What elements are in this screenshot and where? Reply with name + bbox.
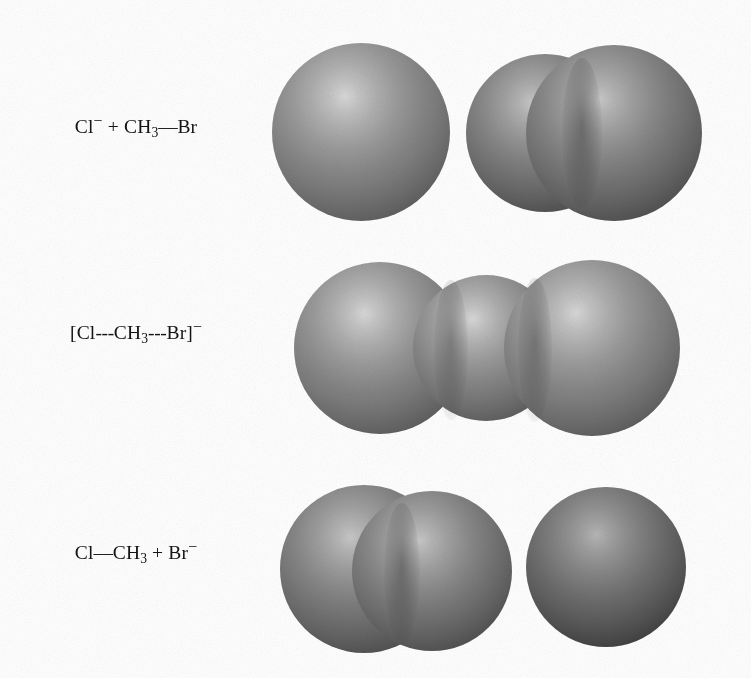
figure-title: SN2 reaction of chloride ion with bromom… [0, 21, 1, 22]
label-dashes-right: --- [148, 322, 166, 343]
atom-bromine [526, 45, 702, 221]
sn2-reaction-figure: SN2 reaction of chloride ion with bromom… [0, 0, 751, 678]
equation-label-products: Cl—CH3 + Br− [0, 538, 272, 567]
label-dashes-left: --- [95, 322, 113, 343]
label-chloride: Cl [75, 116, 94, 137]
label-methyl: CH [113, 542, 141, 563]
molecule-transition-state-complex [294, 258, 680, 438]
label-chloride: Cl [75, 542, 94, 563]
label-bromide-charge: − [188, 538, 197, 555]
molecule-bromide-ion [526, 487, 686, 647]
equation-label-transition-state: [Cl---CH3---Br]− [0, 318, 272, 347]
atom-methyl-group [352, 491, 512, 651]
molecule-bromomethane [466, 40, 702, 225]
label-bromine: Br [177, 116, 197, 137]
label-plus: + [152, 542, 163, 563]
label-bracket-open: [ [70, 322, 77, 343]
label-bromine: Br [168, 542, 188, 563]
equation-label-reactants: Cl− + CH3—Br [0, 112, 272, 141]
atom-chlorine [272, 43, 450, 221]
atom-bromine [526, 487, 686, 647]
label-methyl: CH [114, 322, 142, 343]
atom-bromine [504, 260, 680, 436]
label-complex-charge: − [193, 318, 202, 335]
label-methyl: CH [124, 116, 152, 137]
label-bromine: Br [166, 322, 186, 343]
label-chloride: Cl [77, 322, 96, 343]
label-plus: + [108, 116, 119, 137]
label-chloride-charge: − [94, 112, 103, 129]
label-bond: — [94, 542, 113, 563]
molecule-chloride-ion [272, 43, 450, 221]
label-bond: — [158, 116, 177, 137]
label-methyl-count: 3 [140, 551, 147, 566]
molecule-chloromethane [280, 481, 512, 659]
